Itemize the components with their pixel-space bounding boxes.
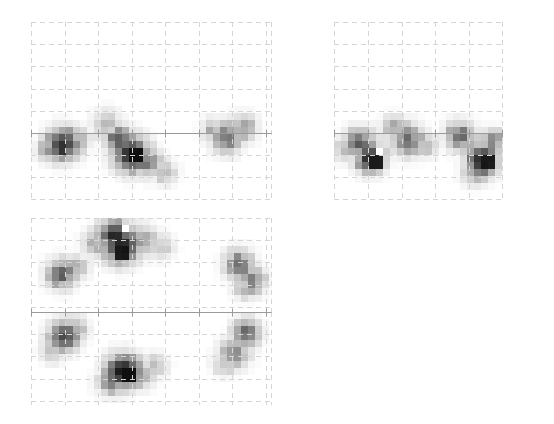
panel-top-left (31, 22, 272, 200)
figure-root (0, 0, 554, 424)
intensity-map-1 (31, 22, 272, 200)
panel-mid-left (31, 218, 272, 312)
intensity-map-3 (31, 218, 272, 312)
panel-bottom-left (31, 312, 272, 405)
intensity-map-4 (31, 312, 272, 405)
panel-top-right (334, 22, 503, 200)
intensity-map-2 (334, 22, 503, 200)
